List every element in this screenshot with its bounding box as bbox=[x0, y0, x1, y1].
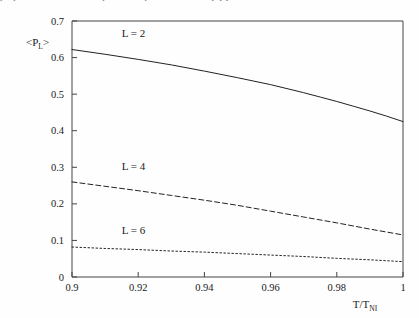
y-tick-label: 0.5 bbox=[51, 89, 64, 100]
curve-label: L = 6 bbox=[122, 224, 146, 236]
curve-label: L = 4 bbox=[122, 160, 146, 172]
x-tick-label: 0.98 bbox=[328, 282, 346, 293]
y-axis-label: <PL> bbox=[26, 36, 49, 51]
plot-svg: 00.10.20.30.40.50.60.70.90.920.940.960.9… bbox=[0, 0, 419, 318]
x-tick-label: 1 bbox=[400, 282, 405, 293]
y-tick-label: 0.7 bbox=[51, 16, 64, 27]
curve-label: L = 2 bbox=[122, 27, 146, 39]
plot-frame bbox=[72, 21, 403, 277]
y-tick-label: 0.4 bbox=[51, 125, 65, 136]
labels-layer: 00.10.20.30.40.50.60.70.90.920.940.960.9… bbox=[26, 16, 406, 313]
x-tick-label: 0.9 bbox=[65, 282, 78, 293]
y-tick-label: 0.1 bbox=[51, 235, 64, 246]
x-tick-label: 0.96 bbox=[261, 282, 279, 293]
y-tick-label: 0.3 bbox=[51, 162, 64, 173]
axes-layer bbox=[72, 21, 403, 277]
y-tick-label: 0 bbox=[59, 272, 64, 283]
figure-container: properties of the nematic phase computed… bbox=[0, 0, 419, 318]
curve-l2 bbox=[72, 50, 403, 122]
curve-l6 bbox=[72, 247, 403, 262]
x-axis-label: T/TNI bbox=[353, 298, 378, 313]
y-tick-label: 0.2 bbox=[51, 198, 64, 209]
y-tick-label: 0.6 bbox=[51, 52, 64, 63]
x-tick-label: 0.94 bbox=[195, 282, 214, 293]
x-tick-label: 0.92 bbox=[129, 282, 147, 293]
